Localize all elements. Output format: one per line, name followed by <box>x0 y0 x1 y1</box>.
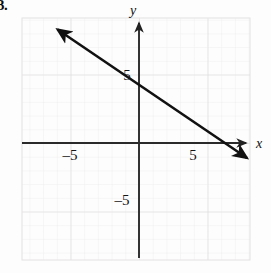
tick-label-y-negative-5: –5 <box>114 192 130 208</box>
x-axis-label: x <box>255 136 263 151</box>
coordinate-plane: y x –5 5 5 –5 <box>0 0 271 273</box>
tick-label-x-negative-5: –5 <box>62 147 78 163</box>
y-axis-label: y <box>128 3 137 18</box>
grid <box>22 18 250 260</box>
tick-label-y-positive-5: 5 <box>123 67 131 83</box>
graph-figure: 3. <box>0 0 271 273</box>
tick-label-x-positive-5: 5 <box>189 147 197 163</box>
